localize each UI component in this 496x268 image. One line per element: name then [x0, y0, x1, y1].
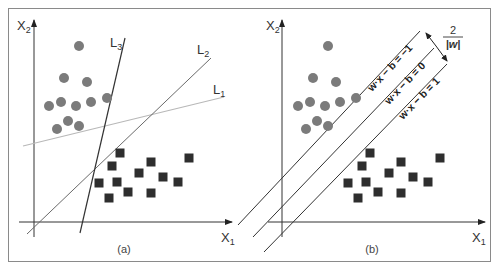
data-point-square: [108, 162, 117, 171]
data-point-circle: [59, 73, 69, 83]
data-point-circle: [293, 101, 303, 111]
panel-a-caption: (a): [117, 243, 130, 255]
data-point-square: [95, 179, 104, 188]
data-point-circle: [308, 73, 318, 83]
panel-a-square-class: [95, 149, 194, 203]
data-point-square: [185, 154, 194, 163]
data-point-circle: [52, 124, 62, 134]
data-point-circle: [82, 77, 92, 87]
data-point-square: [124, 188, 133, 197]
data-point-square: [344, 179, 353, 188]
line-l3: [80, 38, 125, 233]
line-l3-label: L3: [110, 35, 122, 52]
data-point-square: [113, 178, 122, 187]
data-point-circle: [305, 97, 315, 107]
data-point-square: [135, 169, 144, 178]
data-point-circle: [320, 101, 330, 111]
svg-text:2: 2: [450, 24, 456, 36]
data-point-square: [436, 154, 445, 163]
panel-a-circle-class: [44, 41, 112, 134]
data-point-square: [147, 158, 156, 167]
line-l2-label: L2: [197, 42, 209, 59]
panel-b-y-axis-label: X2: [266, 18, 280, 35]
data-point-circle: [331, 77, 341, 87]
data-point-circle: [312, 116, 322, 126]
data-point-circle: [71, 101, 81, 111]
data-point-square: [397, 158, 406, 167]
panel-b-square-class: [344, 149, 445, 203]
panel-b: X2 X1 w·x − b = −1 w·x − b = 0 w·x − b =…: [238, 18, 486, 255]
data-point-circle: [63, 116, 73, 126]
data-point-square: [159, 173, 168, 182]
data-point-circle: [44, 101, 54, 111]
data-point-circle: [74, 121, 84, 131]
svg-text:|w|: |w|: [446, 38, 461, 50]
data-point-square: [362, 178, 371, 187]
data-point-circle: [56, 97, 66, 107]
panel-a-y-axis-label: X2: [17, 18, 31, 35]
panel-a: X2 X1 L1 L2 L3: [17, 18, 235, 255]
panel-b-caption: (b): [365, 243, 378, 255]
data-point-square: [397, 189, 406, 198]
data-point-square: [424, 178, 433, 187]
data-point-square: [147, 189, 156, 198]
data-point-circle: [86, 97, 96, 107]
data-point-circle: [74, 41, 84, 51]
data-point-circle: [323, 121, 333, 131]
data-point-square: [385, 169, 394, 178]
panel-b-circle-class: [293, 41, 361, 134]
line-l1-label: L1: [213, 82, 225, 99]
data-point-circle: [323, 41, 333, 51]
data-point-square: [366, 149, 375, 158]
data-point-square: [105, 194, 114, 203]
margin-width-fraction: 2 |w|: [443, 24, 463, 50]
data-point-square: [174, 178, 183, 187]
data-point-square: [409, 173, 418, 182]
data-point-circle: [351, 93, 361, 103]
margin-width-arrow: [426, 33, 436, 46]
data-point-circle: [301, 124, 311, 134]
panel-a-x-axis-label: X1: [221, 230, 235, 247]
svm-figure: X2 X1 L1 L2 L3: [0, 0, 496, 268]
data-point-square: [358, 162, 367, 171]
data-point-square: [374, 188, 383, 197]
data-point-circle: [102, 93, 112, 103]
line-l2: [27, 58, 211, 234]
panel-b-x-axis-label: X1: [472, 230, 486, 247]
data-point-circle: [335, 97, 345, 107]
data-point-square: [354, 194, 363, 203]
data-point-square: [116, 149, 125, 158]
